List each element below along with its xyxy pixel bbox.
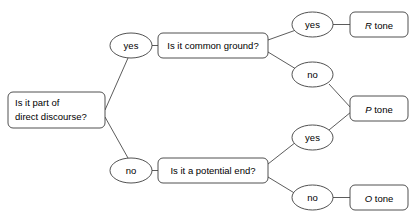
o-tone-suffix: tone — [372, 192, 393, 203]
root-no-label: no — [126, 165, 137, 176]
pe-yes-label: yes — [305, 132, 320, 143]
edge-root-to-root-no — [105, 117, 128, 158]
node-root-no[interactable]: no — [110, 158, 152, 183]
root-yes-label: yes — [124, 40, 139, 51]
node-potential-end-yes[interactable]: yes — [292, 125, 333, 150]
root-label-line2: direct discourse? — [15, 111, 87, 122]
r-tone-suffix: tone — [372, 19, 393, 30]
node-root[interactable]: Is it part of direct discourse? — [8, 92, 105, 128]
p-tone-label: P tone — [365, 103, 392, 114]
edge-pe-yes-to-p-tone — [329, 112, 351, 130]
node-r-tone[interactable]: R tone — [350, 12, 408, 37]
pe-no-label: no — [307, 192, 318, 203]
cg-no-label: no — [307, 69, 318, 80]
r-tone-label: R tone — [365, 19, 393, 30]
flowchart-canvas: Is it part of direct discourse? yes no I… — [0, 0, 416, 222]
node-potential-end-no[interactable]: no — [292, 185, 333, 210]
edge-root-to-root-yes — [105, 58, 128, 110]
o-tone-label: O tone — [365, 192, 394, 203]
cg-yes-label: yes — [305, 19, 320, 30]
node-root-yes[interactable]: yes — [110, 33, 152, 58]
edge-common-ground-to-cg-yes — [268, 30, 296, 40]
potential-end-label: Is it a potential end? — [170, 165, 255, 176]
node-potential-end[interactable]: Is it a potential end? — [158, 158, 268, 183]
common-ground-label: Is it common ground? — [167, 40, 258, 51]
node-o-tone[interactable]: O tone — [350, 185, 408, 210]
node-p-tone[interactable]: P tone — [350, 96, 408, 121]
node-common-ground-yes[interactable]: yes — [292, 12, 333, 37]
node-common-ground-no[interactable]: no — [292, 62, 333, 87]
edge-potential-end-to-pe-no — [268, 177, 296, 194]
node-common-ground[interactable]: Is it common ground? — [158, 33, 268, 58]
decision-tree-diagram: Is it part of direct discourse? yes no I… — [0, 0, 416, 222]
edge-cg-no-to-p-tone — [329, 84, 351, 108]
root-label-line1: Is it part of — [15, 97, 60, 108]
edge-potential-end-to-pe-yes — [268, 142, 296, 164]
p-tone-suffix: tone — [372, 103, 393, 114]
edge-common-ground-to-cg-no — [268, 52, 296, 69]
